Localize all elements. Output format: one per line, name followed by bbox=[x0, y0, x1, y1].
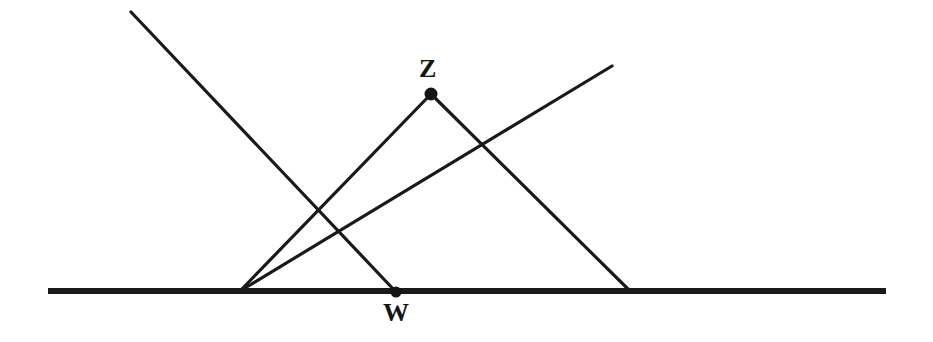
vertex-point-z bbox=[425, 88, 438, 101]
apex-right-leg-line bbox=[431, 94, 630, 291]
vertex-label-w: W bbox=[383, 300, 409, 326]
vertex-point-w bbox=[391, 287, 402, 298]
geometry-canvas bbox=[0, 0, 933, 342]
long-diagonal-descending-line bbox=[131, 12, 396, 292]
vertex-label-z: Z bbox=[419, 56, 436, 82]
geometry-figure: Z W bbox=[0, 0, 933, 342]
